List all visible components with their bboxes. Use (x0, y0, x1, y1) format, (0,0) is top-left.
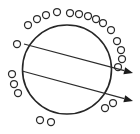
lower-ray-arrowhead-icon (123, 95, 133, 102)
particle-circle (100, 20, 107, 27)
particle-circle (93, 16, 100, 23)
particle-circle (37, 117, 44, 124)
main-circle-group (23, 25, 112, 114)
diagram-canvas (0, 0, 140, 134)
particle-circle (15, 90, 22, 97)
particle-circle (48, 119, 55, 126)
main-circle (23, 25, 112, 114)
particle-circle (76, 11, 83, 18)
particle-circle (118, 47, 125, 54)
particle-circle (114, 38, 121, 45)
particle-circle (119, 56, 126, 63)
particle-circle (9, 71, 16, 78)
particle-circle (43, 12, 50, 19)
upper-ray-arrowhead-icon (123, 67, 133, 74)
diagram-svg (0, 0, 140, 134)
particle-circle (110, 100, 117, 107)
particle-circle (34, 16, 41, 23)
particle-circle (102, 105, 109, 112)
particle-circle (11, 81, 18, 88)
particle-circle (85, 13, 92, 20)
particle-circle (108, 27, 115, 34)
particle-group (9, 9, 126, 126)
particle-circle (67, 10, 74, 17)
particle-circle (25, 22, 32, 29)
ray-group (22, 44, 133, 102)
particle-circle (14, 41, 21, 48)
particle-circle (54, 9, 61, 16)
